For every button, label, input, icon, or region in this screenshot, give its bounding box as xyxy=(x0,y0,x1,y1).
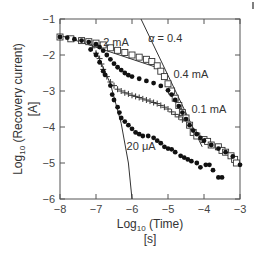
y-axis-unit: [A] xyxy=(26,102,40,117)
annotation-label: 0.4 mA xyxy=(173,68,209,80)
recovery-current-chart: −8−7−6−5−4−3−1−2−3−4−5−6 2 mAα = 0.40.4 … xyxy=(0,0,258,256)
x-tick-label: −5 xyxy=(162,203,175,215)
y-tick-label: −6 xyxy=(42,193,55,205)
x-axis-title: Log10 (Time) xyxy=(117,217,183,233)
x-axis-unit: [s] xyxy=(144,232,157,246)
y-tick-label: −3 xyxy=(42,85,55,97)
y-tick-label: −2 xyxy=(42,49,55,61)
y-tick-label: −4 xyxy=(42,121,55,133)
annotation-label: 0.1 mA xyxy=(191,103,227,115)
x-tick-label: −4 xyxy=(198,203,211,215)
y-tick-label: −1 xyxy=(42,13,55,25)
x-tick-label: −3 xyxy=(234,203,247,215)
x-tick-label: −7 xyxy=(90,203,103,215)
x-tick-label: −6 xyxy=(126,203,139,215)
annotation-label: 2 mA xyxy=(103,36,129,48)
x-axis-label: Log10 (Time) [s] xyxy=(117,217,183,246)
y-tick-label: −5 xyxy=(42,157,55,169)
y-axis-label: Log10 (Recovery current) [A] xyxy=(11,43,40,175)
annotation-label: α = 0.4 xyxy=(148,32,182,44)
y-axis-title: Log10 (Recovery current) xyxy=(11,43,27,175)
x-tick-label: −8 xyxy=(54,203,67,215)
annotation-label: 20 μA xyxy=(127,140,157,152)
reference-lines xyxy=(60,19,202,199)
